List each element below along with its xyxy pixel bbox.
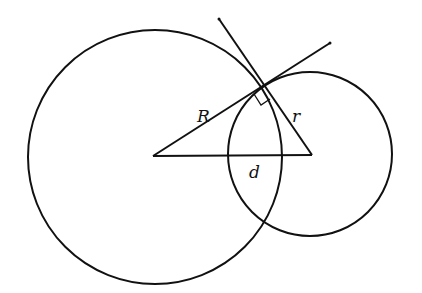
geometry-diagram: R r d (0, 0, 422, 293)
radius-r-tangent-line (219, 19, 312, 155)
small-circle (228, 72, 392, 236)
label-r: r (292, 106, 301, 126)
center-distance-line (153, 155, 312, 156)
label-R: R (196, 106, 210, 126)
big-circle (28, 30, 282, 284)
label-d: d (249, 162, 260, 182)
radius-R-tangent-line (153, 43, 330, 156)
